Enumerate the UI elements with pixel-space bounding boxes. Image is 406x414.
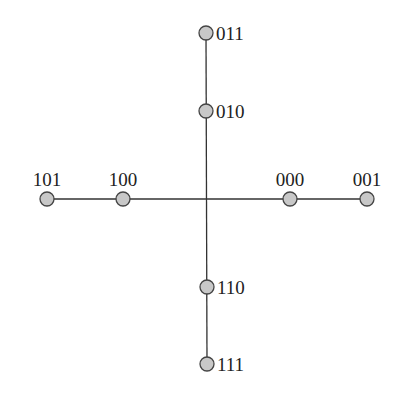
node-label: 110 — [217, 277, 245, 298]
node-label: 010 — [216, 101, 245, 122]
node-circle-icon — [199, 26, 213, 40]
node-circle-icon — [199, 104, 213, 118]
node-101: 101 — [33, 169, 62, 206]
node-circle-icon — [40, 192, 54, 206]
node-000: 000 — [276, 169, 305, 206]
node-label: 000 — [276, 169, 305, 190]
node-100: 100 — [109, 169, 138, 206]
node-circle-icon — [116, 192, 130, 206]
node-001: 001 — [353, 169, 382, 206]
edges — [47, 33, 367, 364]
node-circle-icon — [200, 280, 214, 294]
node-label: 011 — [216, 23, 244, 44]
node-label: 100 — [109, 169, 138, 190]
node-circle-icon — [200, 357, 214, 371]
node-label: 101 — [33, 169, 62, 190]
node-label: 111 — [217, 354, 244, 375]
node-circle-icon — [283, 192, 297, 206]
node-label: 001 — [353, 169, 382, 190]
node-111: 111 — [200, 354, 244, 375]
cross-diagram: 011010101100000001110111 — [0, 0, 406, 414]
node-circle-icon — [360, 192, 374, 206]
